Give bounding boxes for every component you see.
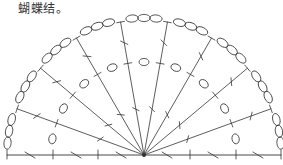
inner-oval bbox=[78, 78, 90, 90]
ray-tip-crossbar bbox=[245, 65, 250, 71]
ray-mid-crossbar bbox=[213, 92, 218, 98]
chain-oval bbox=[274, 124, 283, 137]
ray-slant-tick bbox=[231, 78, 232, 86]
inner-oval bbox=[231, 133, 240, 144]
ray-slant-tick bbox=[117, 114, 124, 115]
inner-oval bbox=[198, 78, 210, 90]
ray-mid-crossbar bbox=[94, 72, 101, 76]
ray-line bbox=[41, 68, 144, 155]
ray-tip-crossbar bbox=[208, 36, 215, 40]
ray-line bbox=[17, 109, 144, 155]
inner-oval bbox=[106, 63, 118, 73]
inner-oval bbox=[170, 63, 182, 73]
chain-oval bbox=[25, 69, 38, 83]
ray-slant-tick bbox=[83, 56, 91, 57]
chain-oval bbox=[173, 18, 187, 28]
inner-oval bbox=[58, 102, 69, 114]
inner-oval bbox=[219, 102, 230, 114]
chain-oval bbox=[276, 137, 283, 150]
crochet-diagram bbox=[0, 0, 283, 165]
inner-oval bbox=[48, 133, 57, 144]
ray-slant-tick bbox=[179, 122, 180, 129]
chain-oval bbox=[149, 14, 162, 22]
ray-slant-tick bbox=[53, 81, 61, 83]
ray-slant-tick bbox=[34, 114, 41, 119]
chain-oval bbox=[90, 21, 104, 32]
chain-oval bbox=[138, 14, 150, 21]
ray-line bbox=[144, 109, 271, 155]
chain-oval bbox=[58, 36, 72, 49]
ray-slant-tick bbox=[97, 137, 103, 141]
ray-tip-crossbar bbox=[38, 65, 43, 71]
chain-oval bbox=[271, 113, 281, 127]
chain-oval bbox=[102, 18, 116, 28]
center-point bbox=[142, 153, 146, 157]
ray-mid-crossbar bbox=[70, 92, 75, 98]
chain-oval bbox=[225, 43, 239, 56]
chain-oval bbox=[126, 14, 139, 22]
chain-oval bbox=[215, 36, 229, 49]
chain-oval bbox=[3, 137, 11, 150]
ray-mid-crossbar bbox=[187, 72, 194, 76]
chain-oval bbox=[40, 51, 54, 65]
chain-oval bbox=[234, 51, 248, 65]
chain-oval bbox=[49, 43, 63, 56]
chain-oval bbox=[7, 113, 17, 127]
ray-line bbox=[144, 68, 247, 155]
inner-oval bbox=[139, 58, 149, 65]
chain-oval bbox=[250, 69, 263, 83]
ray-tip-crossbar bbox=[73, 36, 80, 40]
ray-slant-tick bbox=[105, 124, 112, 126]
chain-oval bbox=[184, 21, 198, 32]
chain-oval bbox=[4, 124, 13, 137]
